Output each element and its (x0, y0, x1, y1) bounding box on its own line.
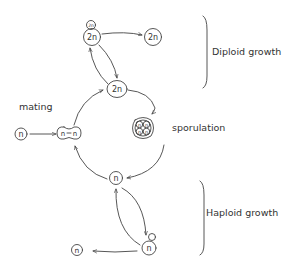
haploid-growth-label: Haploid growth (206, 207, 278, 218)
svg-text:n: n (138, 129, 141, 135)
svg-text:n: n (61, 130, 65, 138)
svg-text:n: n (138, 122, 141, 128)
arrow-diploid-up (90, 48, 108, 84)
mating-haploid-cell: n (15, 128, 27, 140)
haploid-released-cell: n (72, 245, 83, 256)
diploid-bracket (203, 16, 207, 88)
arrow-haploid-to-mating (75, 146, 107, 179)
arrow-diploid-down (99, 45, 117, 78)
svg-text:n: n (146, 244, 151, 253)
svg-text:2n: 2n (88, 23, 94, 28)
diploid-main-cell: 2n (107, 81, 127, 98)
arrow-bud-release-diploid (102, 33, 142, 35)
mating-label: mating (19, 101, 53, 112)
svg-text:n: n (73, 130, 77, 138)
arrow-to-sporulation (128, 90, 155, 114)
diploid-budding-cell: 2n 2n (84, 21, 101, 46)
zygote-cell: n n (57, 127, 81, 139)
svg-text:n: n (75, 246, 80, 255)
haploid-budding-cell: n (142, 234, 156, 256)
diploid-daughter-cell: 2n (145, 29, 162, 46)
yeast-life-cycle-diagram: 2n 2n 2n 2n (0, 0, 293, 272)
svg-text:2n: 2n (148, 33, 158, 42)
arrow-haploid-up (116, 189, 140, 245)
svg-text:n: n (145, 129, 148, 135)
diploid-growth-label: Diploid growth (212, 46, 281, 57)
svg-text:2n: 2n (112, 85, 122, 94)
arrow-to-haploid (127, 145, 164, 178)
sporulation-tetrad: n n n n (133, 118, 154, 139)
svg-text:n: n (145, 122, 148, 128)
haploid-main-cell: n (110, 172, 123, 185)
sporulation-label: sporulation (172, 122, 225, 133)
arrow-zygote-to-diploid (74, 90, 103, 125)
svg-text:n: n (113, 174, 118, 183)
arrow-haploid-down (122, 188, 146, 235)
svg-text:2n: 2n (87, 33, 97, 42)
svg-text:n: n (18, 130, 23, 139)
diagram-drawing: 2n 2n 2n 2n (0, 0, 293, 272)
arrow-bud-release-haploid (93, 251, 137, 252)
haploid-bracket (200, 181, 204, 255)
